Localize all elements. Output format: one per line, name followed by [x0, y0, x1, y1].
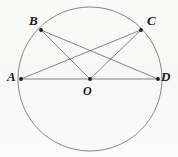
segment-ca: [21, 30, 141, 79]
point-label-c: C: [147, 14, 156, 27]
point-a-marker: [19, 77, 23, 81]
point-label-o: O: [83, 85, 92, 97]
point-c-marker: [139, 28, 143, 32]
segments-group: [21, 30, 158, 79]
segment-co: [90, 30, 141, 79]
points-group: [19, 28, 160, 81]
segment-bd: [41, 30, 158, 79]
geometry-figure: A B C D O: [0, 0, 178, 157]
segment-bo: [41, 30, 90, 79]
point-label-a: A: [7, 70, 16, 83]
point-o-marker: [88, 77, 92, 81]
point-d-marker: [156, 77, 160, 81]
point-label-d: D: [161, 70, 170, 83]
point-label-b: B: [29, 14, 38, 27]
point-b-marker: [39, 28, 43, 32]
